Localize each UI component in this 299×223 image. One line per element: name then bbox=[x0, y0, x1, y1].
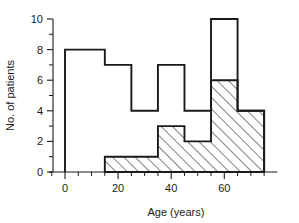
x-tick-label: 40 bbox=[165, 182, 177, 194]
x-tick-label: 60 bbox=[218, 182, 230, 194]
x-axis-title: Age (years) bbox=[147, 206, 204, 218]
y-tick-label: 0 bbox=[37, 166, 43, 178]
y-tick-label: 6 bbox=[37, 74, 43, 86]
x-axis-tick-labels: 0204060 bbox=[62, 182, 230, 194]
x-tick-label: 20 bbox=[112, 182, 124, 194]
y-axis-tick-labels: 0246810 bbox=[31, 13, 43, 178]
y-tick-label: 2 bbox=[37, 135, 43, 147]
y-tick-label: 4 bbox=[37, 105, 43, 117]
histogram-figure: 0246810 0204060 Age (years) No. of patie… bbox=[0, 0, 299, 223]
histogram-svg: 0246810 0204060 Age (years) No. of patie… bbox=[0, 0, 299, 223]
y-axis-title: No. of patients bbox=[4, 60, 16, 131]
y-tick-label: 8 bbox=[37, 44, 43, 56]
y-tick-label: 10 bbox=[31, 13, 43, 25]
x-tick-label: 0 bbox=[62, 182, 68, 194]
y-axis-ticks bbox=[47, 19, 53, 172]
x-axis-ticks bbox=[52, 172, 264, 179]
